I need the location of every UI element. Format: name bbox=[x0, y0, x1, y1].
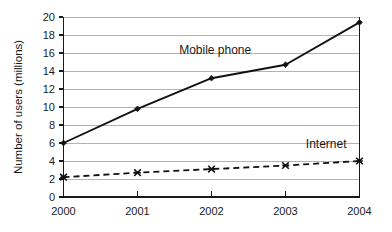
x-label-2003: 2003 bbox=[273, 205, 297, 217]
y-label-12: 12 bbox=[43, 83, 55, 95]
y-label-4: 4 bbox=[49, 155, 55, 167]
y-label-0: 0 bbox=[49, 191, 55, 203]
y-label-16: 16 bbox=[43, 47, 55, 59]
y-label-2: 2 bbox=[49, 173, 55, 185]
y-label-14: 14 bbox=[43, 65, 55, 77]
chart-canvas: 20 18 16 14 12 10 8 6 4 2 0 2000 2001 20… bbox=[0, 0, 392, 232]
y-label-20: 20 bbox=[43, 11, 55, 23]
y-label-10: 10 bbox=[43, 101, 55, 113]
x-label-2002: 2002 bbox=[199, 205, 223, 217]
x-label-2001: 2001 bbox=[125, 205, 149, 217]
y-label-6: 6 bbox=[49, 137, 55, 149]
y-axis-title: Number of users (millions) bbox=[12, 40, 24, 174]
x-label-2004: 2004 bbox=[347, 205, 371, 217]
y-label-18: 18 bbox=[43, 29, 55, 41]
y-label-8: 8 bbox=[49, 119, 55, 131]
mobile-phone-annotation: Mobile phone bbox=[179, 43, 251, 57]
x-label-2000: 2000 bbox=[51, 205, 75, 217]
line-chart-figure: 20 18 16 14 12 10 8 6 4 2 0 2000 2001 20… bbox=[0, 0, 392, 232]
internet-annotation: Internet bbox=[306, 137, 347, 151]
